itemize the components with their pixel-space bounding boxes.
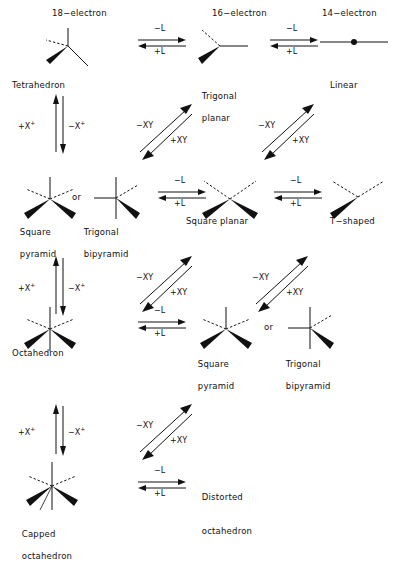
capped-octahedron-line-2: octahedron — [22, 551, 72, 561]
distorted-octahedron-label: Distorted octahedron — [196, 472, 252, 540]
equilibrium-label-minus-X-2: −X+ — [68, 280, 85, 293]
structure-trigonal-bipyramid-row3 — [286, 305, 342, 353]
structure-label-square-pyramid-row3: Square pyramid — [192, 348, 234, 392]
equilibrium-label-plus-XY-3: +XY — [170, 288, 187, 297]
square-pyramid-row3-line-2: pyramid — [198, 381, 235, 391]
structure-label-tetrahedron: Tetrahedron — [12, 80, 65, 91]
structure-square-pyramid-row3 — [196, 305, 256, 353]
trigonal-bipyramid-row3-line-1: Trigonal — [286, 359, 321, 369]
trigonal-bipyramid-row2-line-2: bipyramid — [84, 249, 129, 259]
equilibrium-label-plus-XY-2: +XY — [292, 136, 309, 145]
equilibrium-label-minus-L-1: −L — [154, 24, 165, 33]
or-connector-row3: or — [264, 322, 273, 333]
equilibrium-label-plus-L-1: +L — [154, 47, 165, 56]
structure-tetrahedron — [40, 24, 100, 70]
trigonal-planar-line-1: Trigonal — [202, 91, 237, 101]
structure-label-t-shaped: T−shaped — [330, 216, 375, 227]
equilibrium-label-minus-L-5: −L — [154, 306, 165, 315]
or-connector-row2: or — [72, 192, 81, 203]
structure-label-capped-octahedron: Capped octahedron — [16, 518, 72, 562]
structure-linear — [318, 34, 390, 50]
equilibrium-label-plus-L-5: +L — [154, 329, 165, 338]
equilibrium-label-minus-L-2: −L — [286, 24, 297, 33]
square-pyramid-row2-line-1: Square — [20, 227, 51, 237]
equilibrium-label-plus-XY-1: +XY — [170, 136, 187, 145]
structure-label-linear: Linear — [330, 80, 358, 91]
equilibrium-label-minus-L-3: −L — [174, 176, 185, 185]
trigonal-bipyramid-row3-line-2: bipyramid — [286, 381, 331, 391]
equilibrium-label-plus-L-2: +L — [286, 47, 297, 56]
structure-label-trigonal-planar: Trigonal planar — [196, 80, 237, 124]
structure-capped-octahedron — [20, 460, 84, 512]
equilibrium-label-minus-XY-2: −XY — [258, 121, 275, 130]
distorted-octahedron-line-2: octahedron — [202, 526, 252, 536]
structure-label-square-planar: Square planar — [186, 216, 248, 227]
column-header-14-electron: 14−electron — [322, 8, 377, 19]
square-pyramid-row3-line-1: Square — [198, 359, 229, 369]
equilibrium-tetrahedron-squarepyramid — [50, 92, 70, 156]
equilibrium-label-plus-X-1: +X+ — [18, 118, 35, 131]
equilibrium-label-plus-X-3: +X+ — [18, 424, 35, 437]
equilibrium-label-minus-XY-5: −XY — [136, 421, 153, 430]
equilibrium-label-plus-L-4: +L — [290, 199, 301, 208]
equilibrium-label-minus-X-1: −X+ — [68, 118, 85, 131]
column-header-16-electron: 16−electron — [212, 8, 267, 19]
equilibrium-label-plus-XY-4: +XY — [286, 288, 303, 297]
equilibrium-label-minus-XY-4: −XY — [252, 273, 269, 282]
structure-label-trigonal-bipyramid-row2: Trigonal bipyramid — [78, 216, 129, 260]
equilibrium-label-minus-X-3: −X+ — [68, 424, 85, 437]
trigonal-planar-line-2: planar — [202, 113, 230, 123]
column-header-18-electron: 18−electron — [52, 8, 107, 19]
trigonal-bipyramid-row2-line-1: Trigonal — [84, 227, 119, 237]
structure-trigonal-planar — [196, 24, 256, 70]
equilibrium-label-minus-L-4: −L — [290, 176, 301, 185]
structure-label-octahedron: Octahedron — [12, 348, 64, 359]
structure-label-trigonal-bipyramid-row3: Trigonal bipyramid — [280, 348, 331, 392]
equilibrium-label-minus-L-6: −L — [154, 466, 165, 475]
equilibrium-label-plus-L-3: +L — [174, 199, 185, 208]
equilibrium-label-plus-X-2: +X+ — [18, 280, 35, 293]
structure-octahedron — [20, 305, 80, 353]
equilibrium-octahedron-capped — [50, 402, 70, 458]
equilibrium-label-minus-XY-3: −XY — [136, 273, 153, 282]
equilibrium-label-plus-XY-5: +XY — [170, 436, 187, 445]
equilibrium-label-plus-L-6: +L — [154, 489, 165, 498]
distorted-octahedron-line-1: Distorted — [202, 492, 243, 502]
capped-octahedron-line-1: Capped — [22, 529, 56, 539]
equilibrium-label-minus-XY-1: −XY — [136, 121, 153, 130]
